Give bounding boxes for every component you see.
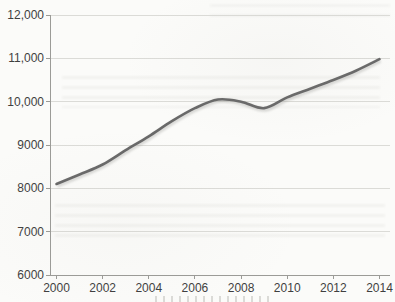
x-tick-label: 2004 xyxy=(135,281,162,295)
y-tick-label: 10,000 xyxy=(7,95,44,109)
tick-labels: 600070008000900010,00011,00012,000200020… xyxy=(7,8,393,295)
x-tick-label: 2002 xyxy=(89,281,116,295)
x-tick-label: 2010 xyxy=(274,281,301,295)
x-tick-label: 2014 xyxy=(366,281,393,295)
y-tick-label: 11,000 xyxy=(8,51,44,65)
y-tick-label: 12,000 xyxy=(7,8,44,22)
y-tick-label: 9000 xyxy=(17,138,44,152)
line-chart: 600070008000900010,00011,00012,000200020… xyxy=(0,0,395,302)
scanned-page: 600070008000900010,00011,00012,000200020… xyxy=(0,0,395,302)
gridlines xyxy=(50,15,390,232)
y-tick-label: 8000 xyxy=(17,181,44,195)
y-tick-label: 6000 xyxy=(17,268,44,282)
y-tick-label: 7000 xyxy=(17,225,44,239)
x-tick-label: 2006 xyxy=(182,281,209,295)
x-tick-label: 2008 xyxy=(228,281,255,295)
tick-marks xyxy=(46,15,380,279)
x-tick-label: 2012 xyxy=(320,281,347,295)
x-tick-label: 2000 xyxy=(43,281,70,295)
